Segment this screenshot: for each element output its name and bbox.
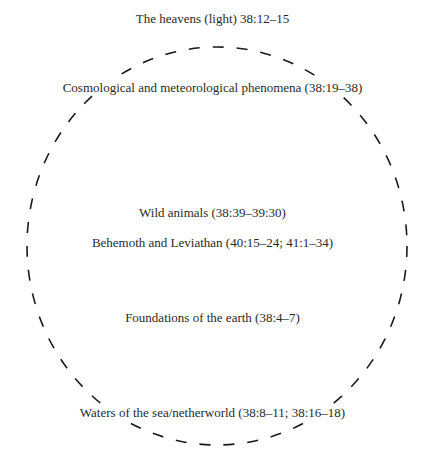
label-waters-of-sea: Waters of the sea/netherworld (38:8–11; … xyxy=(0,405,425,421)
label-foundations-of-earth: Foundations of the earth (38:4–7) xyxy=(0,310,425,326)
dashed-boundary-circle xyxy=(0,0,425,464)
label-cosmological-phenomena: Cosmological and meteorological phenomen… xyxy=(0,80,425,96)
label-heavens: The heavens (light) 38:12–15 xyxy=(0,11,425,27)
cosmos-diagram: The heavens (light) 38:12–15 Cosmologica… xyxy=(0,0,425,464)
label-behemoth-leviathan: Behemoth and Leviathan (40:15–24; 41:1–3… xyxy=(0,235,425,251)
label-wild-animals: Wild animals (38:39–39:30) xyxy=(0,205,425,221)
